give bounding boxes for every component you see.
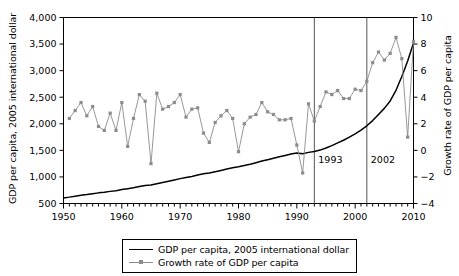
series-marker-growth <box>354 88 357 91</box>
series-marker-growth <box>266 110 269 113</box>
series-marker-growth <box>155 92 158 95</box>
x-tick-label: 1990 <box>285 211 309 222</box>
series-marker-growth <box>149 162 152 165</box>
series-marker-growth <box>120 101 123 104</box>
y-tick-label-left: 3,000 <box>29 65 56 76</box>
series-marker-growth <box>307 102 310 105</box>
series-marker-growth <box>132 117 135 120</box>
series-line-growth <box>69 37 413 173</box>
series-marker-growth <box>126 145 129 148</box>
series-marker-growth <box>214 121 217 124</box>
series-marker-growth <box>359 89 362 92</box>
series-marker-growth <box>103 129 106 132</box>
series-marker-growth <box>237 150 240 153</box>
series-marker-growth <box>260 101 263 104</box>
series-marker-growth <box>91 105 94 108</box>
y-tick-label-right: 6 <box>421 65 427 76</box>
y-tick-label-left: 3,500 <box>29 38 56 49</box>
legend-label-gdp: GDP per capita, 2005 international dolla… <box>158 244 349 255</box>
y-tick-label-left: 500 <box>38 198 56 209</box>
series-marker-growth <box>208 141 211 144</box>
legend-swatch-line-icon <box>128 244 154 255</box>
x-tick-label: 2000 <box>343 211 367 222</box>
chart-plot-area: 5001,0001,5002,0002,5003,0003,5004,000−4… <box>0 0 459 276</box>
chart-legend: GDP per capita, 2005 international dolla… <box>122 239 357 273</box>
series-marker-growth <box>161 108 164 111</box>
series-marker-growth <box>85 114 88 117</box>
series-marker-growth <box>138 93 141 96</box>
series-marker-growth <box>249 116 252 119</box>
series-marker-growth <box>202 131 205 134</box>
series-marker-growth <box>383 58 386 61</box>
y-tick-label-right: 8 <box>421 38 427 49</box>
series-marker-growth <box>324 90 327 93</box>
series-marker-growth <box>330 93 333 96</box>
series-marker-growth <box>371 61 374 64</box>
series-marker-growth <box>179 93 182 96</box>
series-marker-growth <box>284 118 287 121</box>
series-marker-growth <box>231 117 234 120</box>
y-tick-label-left: 4,000 <box>29 12 56 23</box>
y-tick-label-right: 2 <box>421 118 427 129</box>
y-tick-label-right: −4 <box>421 198 435 209</box>
legend-item-growth: Growth rate of GDP per capita <box>128 256 349 269</box>
series-marker-growth <box>254 113 257 116</box>
series-marker-growth <box>225 109 228 112</box>
y-tick-label-left: 1,500 <box>29 145 56 156</box>
series-marker-growth <box>196 106 199 109</box>
series-marker-growth <box>184 116 187 119</box>
series-marker-growth <box>79 101 82 104</box>
legend-swatch-marker-icon <box>128 257 154 268</box>
series-marker-growth <box>301 171 304 174</box>
series-marker-growth <box>342 97 345 100</box>
legend-label-growth: Growth rate of GDP per capita <box>158 257 299 268</box>
y-tick-label-right: 4 <box>421 92 427 103</box>
series-marker-growth <box>313 120 316 123</box>
series-marker-growth <box>319 105 322 108</box>
series-marker-growth <box>412 40 415 43</box>
y-tick-label-right: 0 <box>421 145 427 156</box>
series-marker-growth <box>219 114 222 117</box>
event-label-2002: 2002 <box>371 154 395 165</box>
y-tick-label-right: 10 <box>421 12 433 23</box>
series-line-gdp <box>64 43 414 198</box>
y-tick-label-left: 2,500 <box>29 92 56 103</box>
series-marker-growth <box>97 125 100 128</box>
series-marker-growth <box>114 129 117 132</box>
series-marker-growth <box>377 50 380 53</box>
series-marker-growth <box>336 89 339 92</box>
series-marker-growth <box>68 117 71 120</box>
series-marker-growth <box>144 100 147 103</box>
series-marker-growth <box>295 143 298 146</box>
x-tick-label: 1950 <box>51 211 75 222</box>
series-marker-growth <box>167 105 170 108</box>
series-marker-growth <box>365 80 368 83</box>
series-marker-growth <box>406 135 409 138</box>
series-marker-growth <box>348 97 351 100</box>
chart-figure: GDP per capita, 2005 international dolla… <box>0 0 459 276</box>
x-tick-label: 1970 <box>168 211 192 222</box>
series-marker-growth <box>278 118 281 121</box>
series-marker-growth <box>272 113 275 116</box>
x-tick-label: 2010 <box>401 211 425 222</box>
series-marker-growth <box>243 122 246 125</box>
series-marker-growth <box>190 108 193 111</box>
x-tick-label: 1960 <box>110 211 134 222</box>
legend-item-gdp: GDP per capita, 2005 international dolla… <box>128 243 349 256</box>
series-marker-growth <box>173 101 176 104</box>
y-tick-label-right: −2 <box>421 171 435 182</box>
series-marker-growth <box>400 57 403 60</box>
series-marker-growth <box>289 117 292 120</box>
event-label-1993: 1993 <box>318 154 342 165</box>
series-marker-growth <box>394 36 397 39</box>
x-tick-label: 1980 <box>226 211 250 222</box>
y-tick-label-left: 1,000 <box>29 171 56 182</box>
series-marker-growth <box>389 52 392 55</box>
y-tick-label-left: 2,000 <box>29 118 56 129</box>
series-marker-growth <box>74 109 77 112</box>
series-marker-growth <box>109 112 112 115</box>
